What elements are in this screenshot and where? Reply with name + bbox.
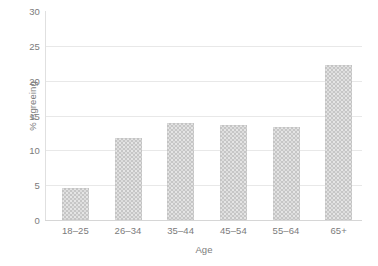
bar-18-25 <box>62 188 89 220</box>
x-tick-label-65-plus: 65+ <box>309 226 368 236</box>
gridline-15 <box>46 116 362 117</box>
x-tick-label-18-25: 18–25 <box>46 226 105 236</box>
x-axis-line <box>45 220 362 221</box>
y-tick-label: 15 <box>6 112 40 122</box>
gridline-10 <box>46 150 362 151</box>
x-axis-title: Age <box>46 245 362 255</box>
y-axis-tick-labels: 30 25 20 15 10 5 0 <box>0 0 40 266</box>
bar-35-44 <box>167 123 194 220</box>
y-tick-label: 0 <box>6 216 40 226</box>
y-tick-label: 30 <box>6 7 40 17</box>
bar-26-34 <box>115 138 142 220</box>
y-tick-label: 20 <box>6 77 40 87</box>
bar-55-64 <box>273 127 300 220</box>
y-tick-label: 10 <box>6 146 40 156</box>
gridline-5 <box>46 185 362 186</box>
bar-65-plus <box>325 65 352 220</box>
bar-45-54 <box>220 125 247 220</box>
y-tick-label: 25 <box>6 42 40 52</box>
x-tick-label-55-64: 55–64 <box>257 226 316 236</box>
x-tick-label-35-44: 35–44 <box>151 226 210 236</box>
x-tick-label-26-34: 26–34 <box>99 226 158 236</box>
plot-area <box>46 11 362 220</box>
x-tick-label-45-54: 45–54 <box>204 226 263 236</box>
gridline-20 <box>46 81 362 82</box>
bar-chart: % Agreeing 30 25 20 15 10 5 0 18–25 26–3… <box>0 0 378 266</box>
y-tick-label: 5 <box>6 181 40 191</box>
gridline-25 <box>46 46 362 47</box>
